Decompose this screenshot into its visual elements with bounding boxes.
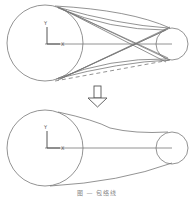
- belt-lower: [50, 163, 172, 186]
- down-arrow-icon: [88, 86, 107, 107]
- y-label-top: Y: [43, 20, 48, 26]
- belt-upper: [58, 112, 168, 133]
- diagram-canvas: Y X Y X: [0, 0, 194, 197]
- large-circle-top: [7, 5, 83, 81]
- x-label-bottom: X: [61, 145, 65, 151]
- x-label-top: X: [61, 41, 65, 47]
- lower-curve-1: [58, 59, 166, 78]
- cross-line-2: [60, 8, 168, 58]
- y-label-bottom: Y: [43, 124, 48, 130]
- figure-caption: 图 — 包络线: [0, 188, 194, 197]
